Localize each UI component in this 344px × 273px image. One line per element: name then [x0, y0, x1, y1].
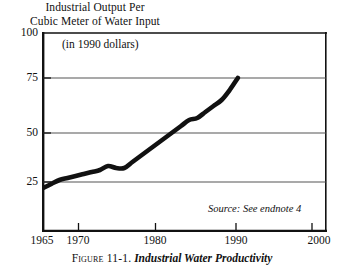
- source-annotation: Source: See endnote 4: [208, 203, 301, 214]
- units-annotation: (in 1990 dollars): [62, 38, 139, 50]
- x-tick-label-1970: 1970: [56, 234, 100, 246]
- figure-industrial-water-productivity: Industrial Output Per Cubic Meter of Wat…: [0, 0, 344, 273]
- x-tick-label-2000: 2000: [297, 234, 341, 246]
- figure-caption: Figure 11-1. Industrial Water Productivi…: [0, 252, 344, 264]
- plot-frame: [42, 32, 327, 232]
- figure-title: Industrial Water Productivity: [134, 252, 272, 264]
- plot-area: [42, 32, 327, 232]
- chart-canvas: [42, 32, 327, 232]
- x-tick-label-1980: 1980: [133, 234, 177, 246]
- y-axis-title: Industrial Output Per Cubic Meter of Wat…: [0, 1, 190, 28]
- y-tick-label-100: 100: [8, 26, 38, 38]
- y-tick-label-50: 50: [8, 126, 38, 138]
- y-tick-label-25: 25: [8, 175, 38, 187]
- y-tick-label-75: 75: [8, 71, 38, 83]
- x-tick-label-1990: 1990: [214, 234, 258, 246]
- figure-number: Figure 11-1.: [72, 252, 132, 264]
- gridlines: [43, 78, 326, 182]
